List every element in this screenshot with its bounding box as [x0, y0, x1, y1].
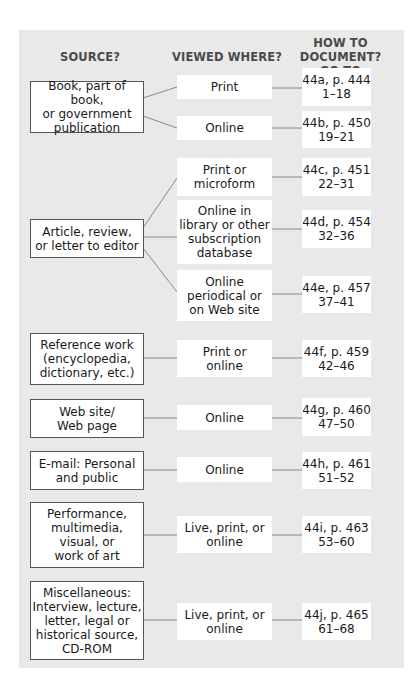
- viewed-live-print-online-misc: Live, print, or online: [177, 603, 272, 640]
- header-source: SOURCE?: [40, 50, 140, 64]
- viewed-online-web: Online: [177, 405, 272, 430]
- ref-44i: 44i, p. 463 53–60: [302, 516, 371, 553]
- ref-44c: 44c, p. 451 22–31: [302, 158, 371, 196]
- viewed-print-or-microform: Print or microform: [177, 158, 272, 196]
- source-reference-work: Reference work (encyclopedia, dictionary…: [30, 333, 144, 385]
- ref-44b: 44b, p. 450 19–21: [302, 111, 371, 148]
- viewed-online-periodical: Online periodical or on Web site: [177, 270, 272, 321]
- ref-44a: 44a, p. 444 1–18: [302, 68, 371, 106]
- viewed-print-or-online: Print or online: [177, 340, 272, 377]
- ref-44e: 44e, p. 457 37–41: [302, 276, 371, 313]
- ref-44h: 44h, p. 461 51–52: [302, 452, 371, 489]
- viewed-online-email: Online: [177, 457, 272, 482]
- source-article: Article, review, or letter to editor: [30, 219, 144, 258]
- viewed-online-library-database: Online in library or other subscription …: [177, 200, 272, 264]
- header-viewed-where: VIEWED WHERE?: [172, 50, 282, 64]
- viewed-live-print-online-performance: Live, print, or online: [177, 516, 272, 553]
- source-miscellaneous: Miscellaneous: Interview, lecture, lette…: [30, 581, 144, 660]
- source-web-site: Web site/ Web page: [30, 399, 144, 438]
- ref-44d: 44d, p. 454 32–36: [302, 210, 371, 248]
- source-book: Book, part of book, or government public…: [30, 81, 144, 133]
- ref-44g: 44g, p. 460 47–50: [302, 398, 371, 436]
- viewed-online: Online: [177, 116, 272, 140]
- source-performance: Performance, multimedia, visual, or work…: [30, 502, 144, 568]
- source-email: E-mail: Personal and public: [30, 451, 144, 490]
- ref-44f: 44f, p. 459 42–46: [302, 340, 371, 377]
- ref-44j: 44j, p. 465 61–68: [302, 603, 371, 640]
- viewed-print: Print: [177, 75, 272, 99]
